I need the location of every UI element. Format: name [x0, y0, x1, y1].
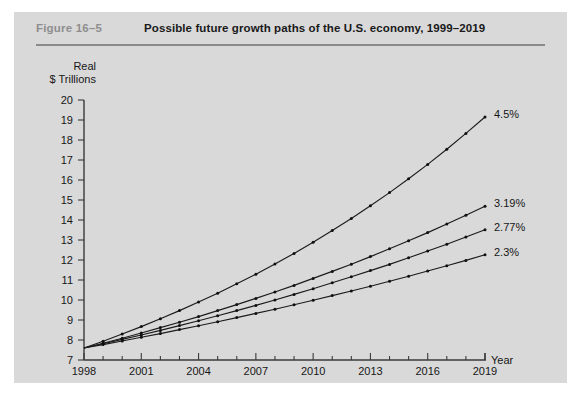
series-data-point — [388, 280, 391, 283]
series-data-point — [178, 309, 181, 312]
figure-card: Figure 16–5 Possible future growth paths… — [14, 12, 567, 383]
series-data-point — [350, 217, 353, 220]
x-tick-label: 2010 — [301, 365, 325, 377]
figure-number: Figure 16–5 — [36, 22, 102, 34]
series-data-point — [254, 273, 257, 276]
series-data-point — [484, 116, 487, 119]
series-data-point — [464, 259, 467, 262]
series-data-point — [197, 315, 200, 318]
chart-series-labels: 4.5%3.19%2.77%2.3% — [494, 108, 525, 258]
series-data-point — [484, 253, 487, 256]
series-data-point — [445, 223, 448, 226]
series-data-point — [159, 326, 162, 329]
series-data-point — [388, 247, 391, 250]
series-data-point — [273, 299, 276, 302]
series-data-point — [464, 236, 467, 239]
y-axis-title: Real $ Trillions — [50, 60, 97, 85]
x-axis-ticks: 19982001200420072010201320162019 — [72, 353, 497, 377]
series-data-point — [426, 250, 429, 253]
series-data-point — [407, 275, 410, 278]
figure-root: Figure 16–5 Possible future growth paths… — [0, 0, 581, 395]
series-data-point — [235, 282, 238, 285]
y-tick-label: 20 — [61, 94, 73, 106]
series-data-point — [484, 228, 487, 231]
series-data-point — [159, 317, 162, 320]
series-data-point — [407, 239, 410, 242]
header-divider — [36, 44, 545, 46]
y-tick-label: 15 — [61, 194, 73, 206]
series-data-point — [312, 299, 315, 302]
series-data-point — [140, 336, 143, 339]
series-data-point — [388, 263, 391, 266]
y-tick-label: 14 — [61, 214, 73, 226]
series-data-point — [331, 281, 334, 284]
y-axis-title-line1: Real — [73, 60, 96, 72]
x-axis-title: Year — [491, 354, 514, 366]
series-data-point — [121, 333, 124, 336]
y-axis-title-line2: $ Trillions — [50, 73, 97, 85]
series-data-point — [369, 269, 372, 272]
series-data-point — [312, 287, 315, 290]
series-data-point — [445, 264, 448, 267]
series-data-point — [197, 324, 200, 327]
x-tick-label: 1998 — [72, 365, 96, 377]
series-data-point — [293, 252, 296, 255]
series-data-point — [312, 241, 315, 244]
y-tick-label: 11 — [62, 274, 73, 286]
series-data-point — [426, 163, 429, 166]
y-tick-label: 17 — [61, 154, 73, 166]
series-data-point — [484, 205, 487, 208]
y-tick-label: 19 — [61, 114, 73, 126]
series-data-point — [254, 304, 257, 307]
y-tick-label: 10 — [61, 294, 73, 306]
series-data-point — [273, 308, 276, 311]
series-data-point — [426, 231, 429, 234]
x-tick-label: 2007 — [244, 365, 268, 377]
series-data-point — [216, 292, 219, 295]
chart-plot-region: Real $ Trillions 78910111213141516171819… — [14, 48, 567, 383]
series-data-point — [159, 329, 162, 332]
series-data-point — [445, 243, 448, 246]
series-label-2.3%: 2.3% — [494, 246, 519, 258]
series-label-2.77%: 2.77% — [494, 221, 525, 233]
y-tick-label: 18 — [61, 134, 73, 146]
series-data-point — [102, 343, 105, 346]
series-data-point — [293, 293, 296, 296]
x-tick-label: 2016 — [415, 365, 439, 377]
series-data-point — [273, 263, 276, 266]
y-axis-ticks: 7891011121314151617181920 — [61, 94, 84, 366]
series-data-point — [197, 319, 200, 322]
series-data-point — [464, 132, 467, 135]
series-data-point — [121, 340, 124, 343]
series-label-3.19%: 3.19% — [494, 197, 525, 209]
page-title: Possible future growth paths of the U.S.… — [144, 22, 485, 34]
series-data-point — [350, 290, 353, 293]
series-data-point — [312, 277, 315, 280]
series-data-point — [331, 294, 334, 297]
y-tick-label: 16 — [61, 174, 73, 186]
series-data-point — [140, 325, 143, 328]
series-data-point — [216, 320, 219, 323]
series-data-point — [178, 321, 181, 324]
y-tick-label: 12 — [61, 254, 73, 266]
x-tick-label: 2013 — [358, 365, 382, 377]
series-data-point — [331, 270, 334, 273]
series-data-point — [159, 332, 162, 335]
series-data-point — [369, 204, 372, 207]
series-data-point — [216, 309, 219, 312]
y-tick-label: 9 — [67, 314, 73, 326]
series-data-point — [254, 312, 257, 315]
series-data-point — [445, 148, 448, 151]
y-tick-label: 13 — [61, 234, 73, 246]
series-data-point — [178, 328, 181, 331]
figure-header: Figure 16–5 Possible future growth paths… — [14, 12, 567, 48]
series-data-point — [350, 263, 353, 266]
chart-series-group — [84, 116, 487, 349]
series-data-point — [235, 303, 238, 306]
series-data-point — [407, 256, 410, 259]
series-data-point — [235, 316, 238, 319]
series-data-point — [273, 291, 276, 294]
series-data-point — [178, 324, 181, 327]
series-line-4.5% — [84, 117, 485, 348]
x-tick-label: 2019 — [473, 365, 497, 377]
